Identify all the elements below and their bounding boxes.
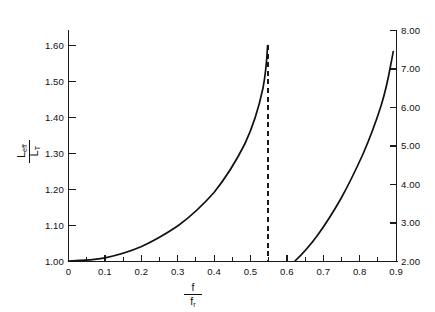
left-axis-ticks <box>69 46 76 262</box>
x-axis-title-numerator: f <box>192 281 195 293</box>
x-tick-label-4: 0.4 <box>207 266 221 277</box>
x-tick-label-7: 0.7 <box>316 266 330 277</box>
left-tick-label-2: 1.20 <box>45 184 64 195</box>
chart-svg: 1.00 1.10 1.20 1.30 1.40 1.50 1.60 Leff … <box>0 0 435 312</box>
x-tick-label-6: 0.6 <box>280 266 294 277</box>
y-axis-title: Leff LT <box>15 140 42 163</box>
right-axis-tick-labels: 2.00 3.00 4.00 5.00 6.00 7.00 8.00 <box>401 25 420 267</box>
right-tick-label-2: 4.00 <box>401 179 420 190</box>
right-tick-label-1: 3.00 <box>401 217 420 228</box>
curve-upper-branch <box>295 52 393 262</box>
left-axis-tick-labels: 1.00 1.10 1.20 1.30 1.40 1.50 1.60 <box>45 40 64 267</box>
x-tick-label-9: 0.9 <box>389 266 403 277</box>
x-tick-label-1: 0.1 <box>98 266 112 277</box>
right-tick-label-0: 2.00 <box>401 256 420 267</box>
x-tick-label-8: 0.8 <box>353 266 367 277</box>
x-tick-label-5: 0.5 <box>244 266 258 277</box>
left-tick-label-3: 1.30 <box>45 148 64 159</box>
x-axis-title-denominator: fr <box>190 295 196 309</box>
left-tick-label-0: 1.00 <box>45 256 64 267</box>
x-tick-label-0: 0 <box>66 266 71 277</box>
left-tick-label-1: 1.10 <box>45 220 64 231</box>
left-tick-label-5: 1.50 <box>45 76 64 87</box>
right-tick-label-5: 7.00 <box>401 63 420 74</box>
x-tick-label-2: 0.2 <box>134 266 148 277</box>
y-axis-title-denominator: LT <box>28 145 42 156</box>
right-tick-label-4: 6.00 <box>401 102 420 113</box>
x-axis-title: f fr <box>184 281 202 309</box>
x-tick-label-3: 0.3 <box>171 266 185 277</box>
right-tick-label-6: 8.00 <box>401 25 420 36</box>
left-tick-label-6: 1.60 <box>45 40 64 51</box>
right-tick-label-3: 5.00 <box>401 140 420 151</box>
curve-lower-branch <box>69 46 268 261</box>
left-tick-label-4: 1.40 <box>45 112 64 123</box>
chart-figure: 1.00 1.10 1.20 1.30 1.40 1.50 1.60 Leff … <box>0 0 435 312</box>
x-axis-tick-labels: 0 0.1 0.2 0.3 0.4 0.5 0.6 0.7 0.8 0.9 <box>66 266 403 277</box>
axis-frame <box>69 30 398 262</box>
